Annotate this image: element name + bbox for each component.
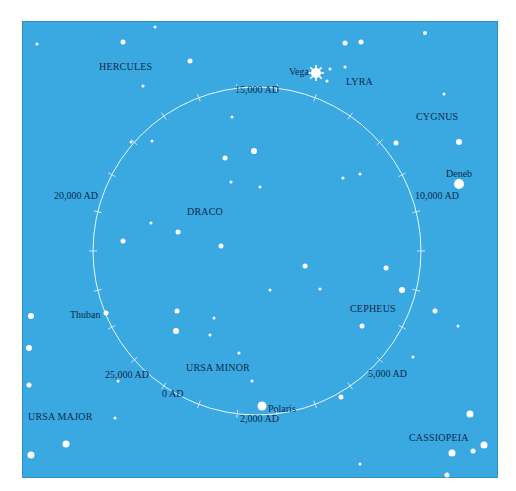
star-icon (269, 289, 272, 292)
star-icon (343, 41, 348, 46)
star-icon (121, 40, 126, 45)
star-icon (251, 148, 257, 154)
constellation-label-hercules: HERCULES (99, 62, 152, 72)
epoch-label-0ad: 0 AD (162, 389, 183, 399)
star-icon (28, 313, 34, 319)
star-icon (344, 66, 347, 69)
tick-mark (108, 325, 115, 329)
star-icon-polaris (258, 402, 267, 411)
star-icon (28, 452, 35, 459)
epoch-label-10000ad: 10,000 AD (415, 191, 459, 201)
star-icon (154, 26, 157, 29)
epoch-label-20000ad: 20,000 AD (54, 191, 98, 201)
star-icon (467, 411, 474, 418)
star-icon (63, 441, 70, 448)
star-label-thuban: Thuban (70, 310, 101, 320)
star-icon (213, 317, 216, 320)
star-icon (359, 463, 362, 466)
star-icon (114, 417, 117, 420)
star-icon-thuban (104, 311, 109, 316)
star-icon (175, 309, 180, 314)
epoch-label-5000ad: 5,000 AD (368, 369, 407, 379)
star-icon (443, 93, 446, 96)
star-icon (449, 450, 456, 457)
star-icon (26, 345, 32, 351)
star-icon (130, 141, 133, 144)
star-icon (359, 173, 362, 176)
star-icon (319, 288, 322, 291)
star-icon (329, 68, 332, 71)
star-icon (360, 324, 365, 329)
star-icon (339, 395, 344, 400)
star-icon-vega (311, 68, 321, 78)
named-stars (104, 65, 465, 411)
star-icon (359, 40, 364, 45)
star-icon (384, 266, 389, 271)
tick-mark (399, 325, 406, 329)
star-icon (303, 264, 308, 269)
star-icon (445, 473, 450, 478)
star-icon (326, 80, 329, 83)
star-icon (219, 244, 224, 249)
precession-path (93, 87, 421, 415)
star-icon (456, 139, 462, 145)
star-icon (433, 309, 438, 314)
constellation-label-ursa-minor: URSA MINOR (186, 363, 250, 373)
epoch-label-2000ad: 2,000 AD (240, 414, 279, 424)
star-icon (251, 380, 254, 383)
star-icon (399, 287, 405, 293)
star-icon (238, 352, 241, 355)
star-icon-deneb (454, 179, 464, 189)
star-icon (173, 328, 179, 334)
constellation-label-lyra: LYRA (346, 77, 373, 87)
tick-mark (348, 383, 353, 390)
star-icon (223, 156, 228, 161)
star-icon (36, 43, 39, 46)
star-icon (259, 186, 262, 189)
constellation-label-ursa-major: URSA MAJOR (28, 412, 93, 422)
star-icon (342, 177, 345, 180)
star-icon (230, 181, 233, 184)
star-icon (121, 239, 126, 244)
star-icon (151, 140, 154, 143)
tick-mark (162, 113, 167, 120)
star-icon (481, 442, 488, 449)
epoch-label-25000ad: 25,000 AD (105, 370, 149, 380)
tick-mark (237, 410, 238, 418)
star-label-vega: Vega (289, 67, 309, 77)
constellation-label-cassiopeia: CASSIOPEIA (409, 433, 469, 443)
star-icon (150, 222, 153, 225)
star-icon (412, 356, 415, 359)
star-icon (423, 31, 427, 35)
star-icon (176, 230, 181, 235)
tick-mark (108, 173, 115, 177)
star-icon (457, 325, 460, 328)
star-icon (209, 334, 212, 337)
tick-mark (348, 113, 353, 120)
star-icon (142, 85, 145, 88)
star-icon (394, 141, 399, 146)
epoch-label-15000ad: 15,000 AD (235, 85, 279, 95)
star-icon (27, 383, 32, 388)
star-icon (471, 449, 476, 454)
star-icon (231, 116, 234, 119)
star-label-deneb: Deneb (446, 169, 472, 179)
star-icon (188, 59, 193, 64)
constellation-label-cygnus: CYGNUS (416, 112, 458, 122)
tick-mark (399, 173, 406, 177)
constellation-label-cepheus: CEPHEUS (350, 304, 396, 314)
constellation-label-draco: DRACO (187, 207, 223, 217)
